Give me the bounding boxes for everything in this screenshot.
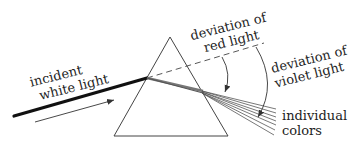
refracted-beam [147,78,203,93]
individual-colors-label-line2: colors [282,123,322,138]
red-deviation-arc [222,57,228,92]
violet-deviation-label: deviation of violet light [268,42,352,90]
prism-diagram: incident white light deviation of red li… [0,0,352,148]
individual-colors-label-line1: individual [282,108,347,123]
dispersed-rays [202,91,276,135]
incident-label: incident white light [28,56,111,104]
red-deviation-label: deviation of red light [189,9,273,57]
direction-arrow [35,100,114,122]
